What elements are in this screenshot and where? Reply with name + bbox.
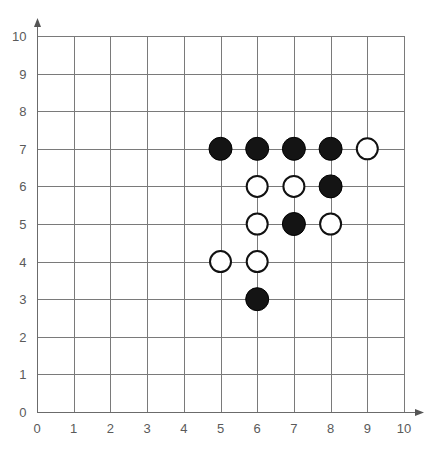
y-tick-label: 7 xyxy=(19,142,26,157)
y-tick-label: 0 xyxy=(19,405,26,420)
white-stone-marker xyxy=(247,251,268,272)
y-tick-label: 6 xyxy=(19,179,26,194)
x-tick-label: 10 xyxy=(397,421,411,436)
x-tick-label: 6 xyxy=(254,421,261,436)
white-stone-marker xyxy=(283,176,304,197)
y-tick-label: 10 xyxy=(12,29,26,44)
white-stone-marker xyxy=(320,214,341,235)
x-tick-label: 2 xyxy=(107,421,114,436)
y-tick-label: 1 xyxy=(19,367,26,382)
x-tick-label: 0 xyxy=(33,421,40,436)
white-stone-marker xyxy=(247,176,268,197)
y-tick-label: 2 xyxy=(19,330,26,345)
black-stone-marker xyxy=(246,137,269,160)
y-tick-label: 8 xyxy=(19,104,26,119)
arrow-right-icon xyxy=(415,409,424,416)
axes xyxy=(34,18,424,416)
black-stone-marker xyxy=(246,288,269,311)
y-tick-label: 9 xyxy=(19,67,26,82)
y-tick-label: 4 xyxy=(19,255,26,270)
y-tick-label: 3 xyxy=(19,292,26,307)
x-tick-label: 5 xyxy=(217,421,224,436)
y-tick-label: 5 xyxy=(19,217,26,232)
x-tick-label: 8 xyxy=(327,421,334,436)
x-tick-label: 4 xyxy=(180,421,187,436)
x-axis-tick-labels: 012345678910 xyxy=(33,421,411,436)
grid-lines xyxy=(37,36,405,413)
white-stone-marker xyxy=(357,138,378,159)
black-stone-marker xyxy=(319,175,342,198)
coordinate-grid-figure: 012345678910 012345678910 xyxy=(0,0,438,457)
white-stone-marker xyxy=(247,214,268,235)
x-tick-label: 3 xyxy=(143,421,150,436)
white-stone-marker xyxy=(210,251,231,272)
x-tick-label: 1 xyxy=(70,421,77,436)
arrow-up-icon xyxy=(34,18,41,27)
x-tick-label: 7 xyxy=(290,421,297,436)
black-stone-marker xyxy=(319,137,342,160)
black-stone-marker xyxy=(282,213,305,236)
black-stone-marker xyxy=(209,137,232,160)
black-stone-marker xyxy=(282,137,305,160)
grid-svg: 012345678910 012345678910 xyxy=(0,0,438,457)
y-axis-tick-labels: 012345678910 xyxy=(12,29,26,420)
x-tick-label: 9 xyxy=(364,421,371,436)
